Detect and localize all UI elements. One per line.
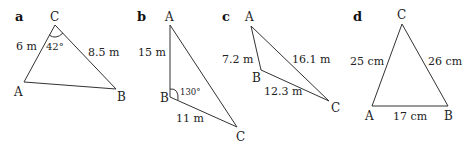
vertex-b-label: B xyxy=(117,90,126,104)
angle-arc-c xyxy=(49,33,63,37)
side-ac-length: 6 m xyxy=(16,40,37,53)
vertex-b-label: B xyxy=(252,71,261,85)
vertex-c-label: C xyxy=(331,101,340,115)
panel-label-b: b xyxy=(137,9,146,24)
vertex-a-label: A xyxy=(244,10,254,24)
angle-c-value: 42° xyxy=(46,41,64,52)
vertex-a-label: A xyxy=(164,10,174,24)
vertex-b-label: B xyxy=(444,109,453,123)
vertex-b-label: B xyxy=(160,91,169,105)
vertex-c-label: C xyxy=(397,8,406,22)
panel-label-d: d xyxy=(353,9,362,24)
vertex-c-label: C xyxy=(236,130,245,144)
side-ac-length: 16.1 m xyxy=(292,53,331,66)
panel-label-a: a xyxy=(15,9,24,24)
triangle-b: b A B C 15 m 11 m 130° xyxy=(137,9,245,144)
side-ab-length: 15 m xyxy=(138,46,166,59)
side-bc-length: 12.3 m xyxy=(264,85,303,98)
diagram-svg: a C A B 6 m 8.5 m 42° b A B C 15 m 11 m … xyxy=(0,0,470,145)
vertex-a-label: A xyxy=(13,85,23,99)
triangle-a: a C A B 6 m 8.5 m 42° xyxy=(13,9,126,104)
side-bc-length: 8.5 m xyxy=(88,46,120,59)
vertex-a-label: A xyxy=(364,109,374,123)
side-bc-length: 26 cm xyxy=(428,55,463,68)
vertex-c-label: C xyxy=(50,10,59,24)
panel-label-c: c xyxy=(222,9,230,24)
side-ab-length: 17 cm xyxy=(393,110,428,123)
triangle-d: d C A B 25 cm 26 cm 17 cm xyxy=(350,8,463,123)
angle-b-value: 130° xyxy=(180,87,200,97)
side-bc-length: 11 m xyxy=(176,112,204,125)
side-ab-length: 7.2 m xyxy=(222,53,254,66)
triangle-c: c A B C 7.2 m 16.1 m 12.3 m xyxy=(222,9,340,115)
side-ac-length: 25 cm xyxy=(350,55,385,68)
triangle-diagrams: a C A B 6 m 8.5 m 42° b A B C 15 m 11 m … xyxy=(0,0,470,145)
